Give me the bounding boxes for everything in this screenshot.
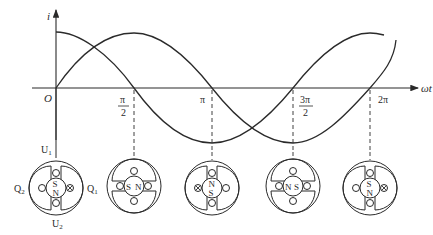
motor-state-2: N S [185, 161, 239, 215]
motor-state-3: N S [266, 159, 320, 213]
svg-text:S: S [126, 182, 131, 192]
label-u2: U2 [52, 218, 63, 231]
y-axis-label: i [47, 10, 50, 22]
tick-3pi-half: 3π 2 [299, 94, 313, 118]
svg-text:N: N [53, 188, 60, 198]
motor-current-diagram: i ωt O π 2 π 3π 2 2π [0, 0, 433, 235]
label-q2: Q2 [14, 183, 25, 196]
svg-text:N: N [285, 182, 292, 192]
motor-state-4: S N [343, 161, 397, 215]
svg-text:S: S [209, 188, 214, 198]
origin-label: O [44, 92, 52, 104]
svg-text:2: 2 [303, 107, 308, 118]
motor-state-1: S N [107, 159, 161, 213]
cross-current-icon [381, 185, 388, 192]
cross-current-icon [195, 185, 202, 192]
motor-state-0: S N [29, 161, 83, 215]
svg-text:N: N [135, 182, 142, 192]
tick-pi-half: π 2 [118, 94, 129, 118]
label-q1: Q1 [87, 183, 98, 196]
tick-2pi: 2π [378, 94, 388, 105]
cross-current-icon [67, 185, 74, 192]
guide-lines [134, 90, 370, 152]
x-axis-label: ωt [421, 82, 433, 94]
svg-text:2: 2 [121, 107, 126, 118]
svg-text:π: π [120, 94, 125, 105]
svg-text:S: S [294, 182, 299, 192]
svg-text:N: N [367, 188, 374, 198]
label-u1: U1 [41, 144, 52, 157]
svg-text:π: π [200, 94, 205, 105]
svg-text:3π: 3π [300, 94, 310, 105]
tick-pi: π [200, 94, 205, 105]
svg-text:2π: 2π [378, 94, 388, 105]
